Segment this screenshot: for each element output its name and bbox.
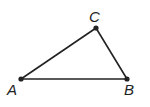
vertex-label-A: A — [6, 81, 17, 98]
vertex-C — [93, 25, 98, 30]
vertex-A — [18, 76, 23, 81]
vertex-label-B: B — [124, 81, 134, 98]
vertex-label-C: C — [89, 8, 100, 25]
segment-CA — [21, 28, 96, 79]
triangle-sides — [21, 28, 127, 79]
triangle-diagram: ABC — [0, 0, 150, 107]
triangle-vertices: ABC — [6, 8, 134, 98]
segment-BC — [96, 28, 127, 79]
